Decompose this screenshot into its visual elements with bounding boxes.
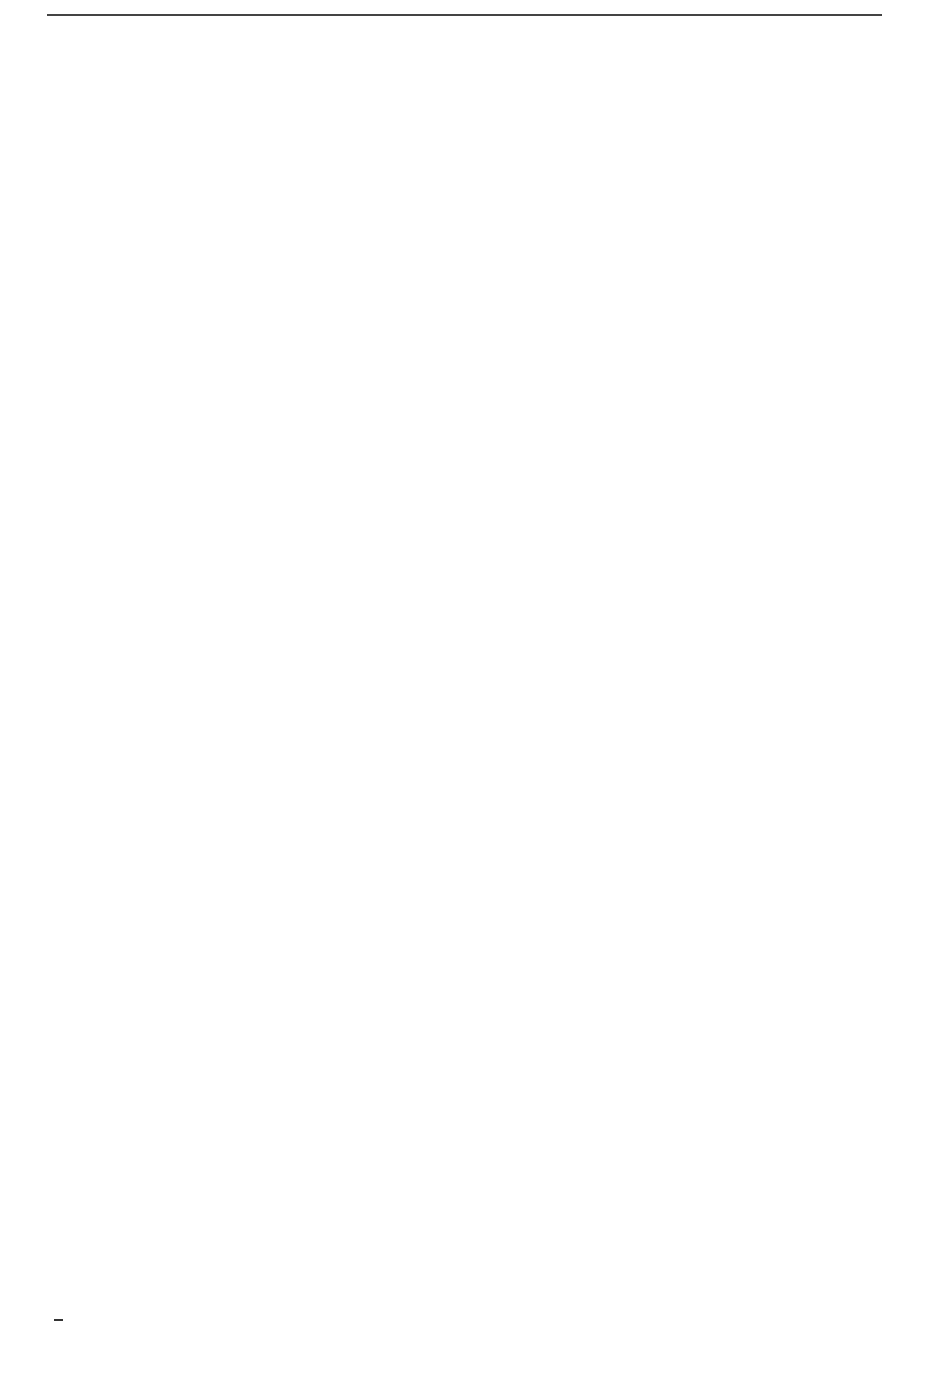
scale-bar [54, 1319, 63, 1321]
dendrogram [0, 0, 937, 1340]
